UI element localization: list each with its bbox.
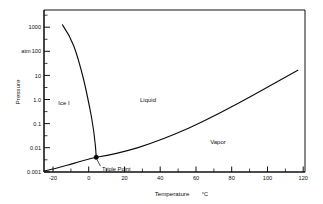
- x-tick-label-neg20: -20: [49, 175, 57, 181]
- y-tick-label-0.1: 0.1: [33, 121, 41, 127]
- y-tick-label-100: 100: [32, 48, 41, 54]
- melting-curve: [63, 25, 97, 158]
- region-label-ice-i: Ice I: [58, 100, 70, 106]
- phase-diagram-svg: 1000 100 10 1.0 0.1 0.01 0.001 atm Press…: [0, 0, 323, 204]
- x-axis-unit-label: °C: [202, 191, 208, 197]
- x-axis-tick-labels: -20 0 20 40 60 80 100 120: [49, 175, 308, 181]
- triple-point-marker: [94, 155, 98, 159]
- vaporization-curve: [96, 70, 298, 157]
- triple-point-leader-line: [97, 159, 101, 166]
- phase-diagram-figure: 1000 100 10 1.0 0.1 0.01 0.001 atm Press…: [0, 0, 323, 204]
- x-tick-label-100: 100: [263, 175, 272, 181]
- y-tick-label-0.01: 0.01: [30, 145, 41, 151]
- x-tick-label-20: 20: [121, 175, 127, 181]
- y-axis-title: Pressure: [14, 79, 21, 104]
- y-tick-label-1000: 1000: [29, 24, 41, 30]
- x-tick-label-80: 80: [229, 175, 235, 181]
- y-tick-label-0.001: 0.001: [27, 169, 41, 175]
- x-axis-title: Temperature: [155, 190, 190, 197]
- x-tick-label-40: 40: [157, 175, 163, 181]
- y-axis-major-ticks: [44, 27, 50, 172]
- x-tick-label-60: 60: [193, 175, 199, 181]
- triple-point-label: Triple Point: [102, 166, 131, 172]
- region-label-vapor: Vapor: [210, 139, 226, 145]
- y-tick-label-1: 1.0: [33, 97, 41, 103]
- y-axis-tick-labels: 1000 100 10 1.0 0.1 0.01 0.001: [27, 24, 41, 175]
- x-tick-label-120: 120: [299, 175, 308, 181]
- x-tick-label-0: 0: [87, 175, 90, 181]
- y-axis-unit-label: atm: [21, 48, 31, 54]
- region-label-liquid: Liquid: [140, 97, 156, 103]
- plot-frame: [44, 10, 305, 172]
- y-tick-label-10: 10: [35, 73, 41, 79]
